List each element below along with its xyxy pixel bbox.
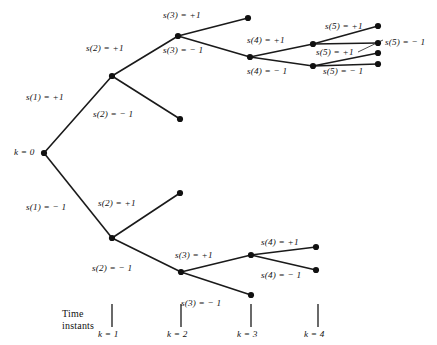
tree-edge	[250, 57, 313, 66]
tree-svg-canvas	[0, 0, 437, 345]
edge-label: s(3) = +1	[163, 11, 201, 20]
edge-label: s(3) = − 1	[181, 299, 221, 308]
tree-node-dot	[247, 54, 253, 60]
binary-tree-diagram: k = 0 Time instants s(1) = +1s(1) = − 1s…	[0, 0, 437, 345]
edge-label: s(2) = +1	[86, 44, 124, 53]
tree-edge	[313, 43, 378, 44]
root-node-label: k = 0	[14, 148, 34, 157]
time-axis-tick-label: k = 1	[98, 330, 118, 339]
tree-node-dot	[41, 150, 47, 156]
tree-node-dot	[375, 61, 381, 67]
edge-label: s(5) = +1	[325, 22, 363, 31]
tree-node-dot	[177, 116, 183, 122]
caption-line-1: Time	[62, 308, 94, 320]
tree-node-dot	[313, 244, 319, 250]
edge-label: s(3) = − 1	[163, 46, 203, 55]
time-instants-caption: Time instants	[62, 308, 94, 332]
edge-label: s(2) = +1	[98, 199, 136, 208]
tree-node-dot	[375, 23, 381, 29]
tree-edge	[178, 18, 248, 36]
tree-node-dot	[177, 190, 183, 196]
tree-node-dot	[109, 235, 115, 241]
tree-node-dot	[248, 252, 254, 258]
tree-node-dot	[248, 292, 254, 298]
tree-node-dot	[175, 33, 181, 39]
time-axis-tick-label: k = 3	[237, 330, 257, 339]
edge-label: s(4) = − 1	[247, 67, 287, 76]
tree-node-dot	[178, 269, 184, 275]
tree-node-dot	[313, 267, 319, 273]
time-axis-tick-label: k = 4	[304, 330, 324, 339]
edge-label: s(4) = +1	[261, 238, 299, 247]
tree-node-dot	[375, 50, 381, 56]
edge-label: s(2) = − 1	[92, 264, 132, 273]
tree-edge	[251, 255, 316, 270]
edge-label: s(4) = − 1	[261, 271, 301, 280]
tree-edge	[251, 247, 316, 255]
edge-label: s(5) = − 1	[323, 67, 363, 76]
edge-label: s(3) = +1	[175, 251, 213, 260]
tree-edge	[112, 36, 178, 76]
edge-label: s(1) = +1	[26, 93, 64, 102]
edge-label: s(4) = +1	[247, 36, 285, 45]
tree-edge	[250, 44, 313, 57]
tree-node-dot	[109, 73, 115, 79]
edge-label: s(5) = +1	[316, 48, 354, 57]
time-axis-tick-label: k = 2	[167, 330, 187, 339]
tree-node-dot	[245, 15, 251, 21]
caption-line-2: instants	[62, 320, 94, 332]
tree-node-dot	[375, 40, 381, 46]
tree-edge	[181, 272, 251, 295]
edge-label: s(1) = − 1	[26, 203, 66, 212]
edge-label: s(5) = − 1	[385, 38, 425, 47]
edge-label: s(2) = − 1	[93, 110, 133, 119]
tree-edge	[44, 153, 112, 238]
tree-node-dot	[310, 63, 316, 69]
